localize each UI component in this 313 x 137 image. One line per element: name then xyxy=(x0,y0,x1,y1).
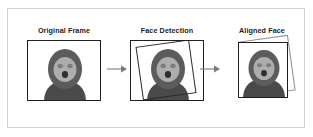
stage-label-face-detection: Face Detection xyxy=(125,26,209,35)
figure-root: Original Frame Face Detection xyxy=(0,0,313,137)
stage-label-original-frame: Original Frame xyxy=(22,26,106,35)
stage-aligned-face: Aligned Face xyxy=(226,26,298,104)
avatar-original-frame xyxy=(28,41,101,101)
stage-face-detection: Face Detection xyxy=(125,26,209,104)
face-detection-bounding-box xyxy=(136,40,197,100)
panel-aligned-face xyxy=(238,42,288,98)
arrow-detection-to-aligned xyxy=(200,63,220,75)
stage-label-aligned-face: Aligned Face xyxy=(226,26,298,35)
panel-face-detection xyxy=(130,40,204,101)
stage-original-frame: Original Frame xyxy=(22,26,106,104)
arrow-original-to-detection xyxy=(107,63,127,75)
avatar-aligned-face xyxy=(239,43,288,98)
panel-original-frame xyxy=(27,40,101,101)
